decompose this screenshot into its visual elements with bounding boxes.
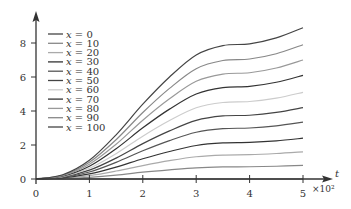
x-tick-label: 2 xyxy=(140,188,146,199)
x-tick-label: 3 xyxy=(193,188,199,199)
y-tick-label: 6 xyxy=(20,72,26,83)
legend: x = 0x = 10x = 20x = 30x = 40x = 50x = 6… xyxy=(48,29,105,133)
y-tick-label: 2 xyxy=(20,140,26,151)
line-chart: 012345 02468 t ×10² x = 0x = 10x = 20x =… xyxy=(0,0,351,209)
x-axis-label: t xyxy=(335,168,340,179)
legend-label: x = 100 xyxy=(66,122,105,133)
y-tick-label: 0 xyxy=(20,174,26,185)
x-tick-label: 1 xyxy=(86,188,92,199)
x-axis-multiplier: ×10² xyxy=(312,184,335,194)
x-tick-label: 0 xyxy=(33,188,39,199)
legend-item: x = 100 xyxy=(48,122,105,133)
x-tick-label: 5 xyxy=(300,188,306,199)
y-tick-label: 4 xyxy=(20,106,26,117)
x-tick-label: 4 xyxy=(246,188,252,199)
y-ticks: 02468 xyxy=(20,38,36,185)
y-tick-label: 8 xyxy=(20,38,26,49)
